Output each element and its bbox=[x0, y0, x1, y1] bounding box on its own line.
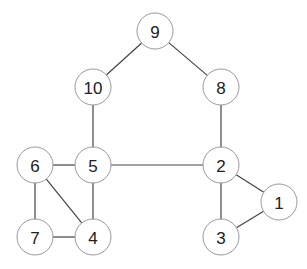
node-8: 8 bbox=[203, 69, 239, 105]
node-label: 2 bbox=[216, 157, 225, 176]
edge-2-1 bbox=[236, 175, 264, 193]
edge-9-8 bbox=[169, 43, 208, 76]
node-1: 1 bbox=[261, 184, 297, 220]
node-label: 9 bbox=[150, 23, 159, 42]
node-label: 5 bbox=[88, 157, 97, 176]
node-label: 1 bbox=[274, 194, 283, 213]
nodes-layer: 91086521743 bbox=[17, 13, 297, 255]
node-5: 5 bbox=[75, 147, 111, 183]
node-6: 6 bbox=[17, 147, 53, 183]
node-4: 4 bbox=[75, 219, 111, 255]
edge-6-4 bbox=[46, 179, 81, 223]
edge-9-10 bbox=[106, 43, 141, 75]
node-10: 10 bbox=[75, 69, 111, 105]
node-label: 4 bbox=[88, 229, 97, 248]
node-label: 3 bbox=[216, 229, 225, 248]
node-3: 3 bbox=[203, 219, 239, 255]
node-label: 8 bbox=[216, 79, 225, 98]
node-label: 7 bbox=[30, 229, 39, 248]
edge-3-1 bbox=[236, 211, 263, 227]
node-2: 2 bbox=[203, 147, 239, 183]
node-label: 6 bbox=[30, 157, 39, 176]
node-label: 10 bbox=[84, 79, 103, 98]
graph-diagram: 91086521743 bbox=[0, 0, 307, 269]
node-7: 7 bbox=[17, 219, 53, 255]
node-9: 9 bbox=[137, 13, 173, 49]
